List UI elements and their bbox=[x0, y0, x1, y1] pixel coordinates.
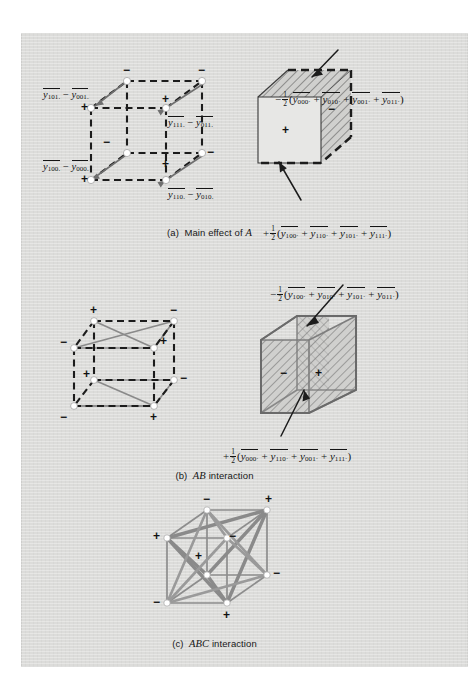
vertex-sign: − bbox=[60, 336, 67, 348]
formula-b-bottom: +12(y000· + y110· + y001· + y111·) bbox=[223, 448, 351, 464]
panel-a: − − + + − − + + y101. − y001. y111. − y0… bbox=[21, 33, 468, 248]
vertex-sign: − bbox=[273, 567, 280, 579]
vertex-sign: − bbox=[207, 146, 214, 158]
face-sign-plus: + bbox=[282, 124, 289, 136]
face-sign-minus: − bbox=[280, 367, 287, 379]
vertex-sign: + bbox=[223, 609, 230, 621]
vertex-sign: + bbox=[265, 493, 272, 505]
vertex-sign: − bbox=[123, 64, 130, 76]
vertex-sign: + bbox=[195, 550, 202, 562]
vertex-sign: + bbox=[160, 335, 167, 347]
cube-b-left-svg bbox=[41, 288, 246, 438]
caption-c: (c) ABC interaction bbox=[0, 638, 438, 649]
panel-a-right-cube: + − bbox=[246, 45, 466, 220]
panel-b: + − − + + − − + bbox=[21, 248, 468, 473]
cube-c-svg bbox=[139, 488, 349, 638]
vertex-sign: − bbox=[203, 493, 210, 505]
cube-b-right-svg bbox=[251, 278, 471, 443]
formula-b-top: −12(y100· + y010· + y101· + y011·) bbox=[270, 286, 399, 302]
vertex-sign: + bbox=[90, 304, 97, 316]
vertex-sign: − bbox=[170, 304, 177, 316]
panel-b-left-cube: + − − + + − − + bbox=[41, 288, 246, 438]
contrast-label-111-011: y111. − y011. bbox=[168, 117, 213, 129]
figure-page: − − + + − − + + y101. − y001. y111. − y0… bbox=[0, 0, 473, 678]
vertex-sign: + bbox=[153, 530, 160, 542]
vertex-sign: − bbox=[103, 136, 110, 148]
formula-a-top: −12(y000· + y010· + y001· + y011·) bbox=[275, 91, 404, 107]
panel-c-cube: − + + − + − − + bbox=[139, 488, 349, 638]
vertex-sign: − bbox=[153, 596, 160, 608]
panel-b-right-cube: − + bbox=[251, 278, 471, 443]
contrast-label-100-000: y100. − y000. bbox=[43, 161, 89, 173]
vertex-sign: + bbox=[81, 173, 88, 185]
vertex-sign: + bbox=[162, 158, 169, 170]
vertex-sign: + bbox=[81, 101, 88, 113]
vertex-sign: − bbox=[60, 411, 67, 423]
caption-b: (b) AB interaction bbox=[0, 470, 438, 481]
contrast-label-110-010: y110. − y010. bbox=[168, 189, 214, 201]
vertex-sign: + bbox=[150, 411, 157, 423]
vertex-sign: + bbox=[83, 368, 90, 380]
vertex-sign: − bbox=[198, 64, 205, 76]
cube-a-right-svg bbox=[246, 45, 466, 220]
caption-a: (a) Main effect of A bbox=[0, 227, 433, 238]
vertex-sign: + bbox=[162, 93, 169, 105]
vertex-sign: − bbox=[180, 372, 187, 384]
contrast-label-101-001: y101. − y001. bbox=[43, 89, 89, 101]
panel-c: − + + − + − − + (c) ABC interaction bbox=[21, 488, 468, 663]
vertex-sign: − bbox=[229, 530, 236, 542]
face-sign-plus: + bbox=[315, 367, 322, 379]
figure-gray-panel: − − + + − − + + y101. − y001. y111. − y0… bbox=[21, 33, 468, 667]
